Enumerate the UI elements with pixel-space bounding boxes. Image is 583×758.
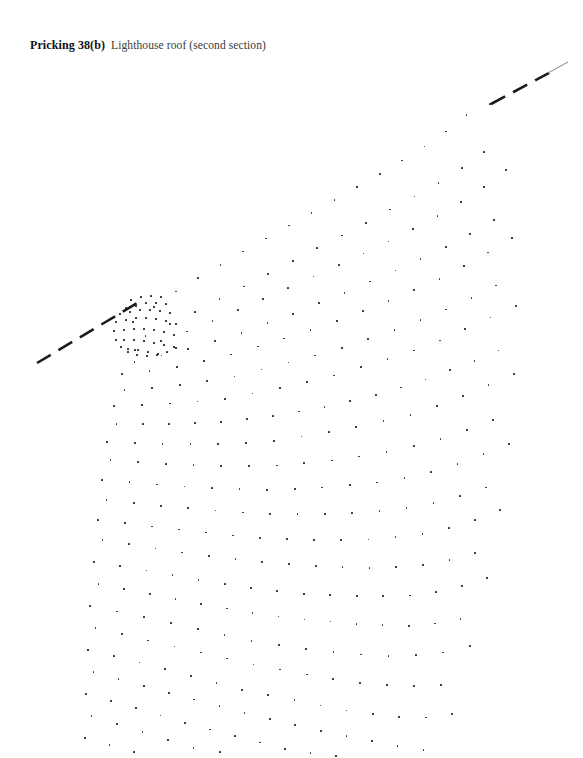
- pin-hole: [123, 588, 125, 590]
- pin-hole: [197, 277, 199, 279]
- pin-hole: [87, 649, 89, 651]
- pin-hole: [404, 477, 406, 479]
- pin-hole: [93, 561, 95, 563]
- pin-hole: [499, 509, 501, 511]
- pin-hole-pivot: [173, 334, 175, 336]
- pin-hole: [160, 505, 162, 507]
- lower-left-join-line: [37, 302, 139, 363]
- pin-hole: [128, 543, 130, 545]
- pin-hole-pivot: [163, 331, 165, 333]
- pin-hole: [246, 418, 248, 420]
- pin-hole-pivot: [146, 355, 148, 357]
- pin-hole: [167, 739, 169, 741]
- pin-hole: [461, 167, 463, 169]
- pin-hole: [165, 463, 167, 465]
- pin-hole: [489, 103, 491, 105]
- pin-hole-pivot: [165, 320, 167, 322]
- pin-hole: [335, 755, 337, 757]
- pin-hole: [203, 360, 205, 362]
- pin-hole: [276, 590, 278, 592]
- pin-hole: [328, 431, 330, 433]
- pin-hole: [121, 373, 123, 375]
- pin-hole: [133, 751, 135, 753]
- pin-hole: [474, 519, 476, 521]
- pin-hole: [474, 552, 476, 554]
- pin-hole: [85, 693, 87, 695]
- pin-hole: [351, 512, 353, 514]
- pin-hole: [224, 583, 226, 585]
- pin-hole: [168, 423, 170, 425]
- pin-hole: [372, 713, 374, 715]
- pin-hole: [379, 173, 381, 175]
- pin-hole: [362, 310, 364, 312]
- pin-hole: [356, 595, 358, 597]
- pin-hole: [318, 302, 320, 304]
- pin-hole: [382, 595, 384, 597]
- pin-hole: [459, 495, 461, 497]
- pin-hole: [469, 645, 471, 647]
- pin-hole: [313, 539, 315, 541]
- pin-hole-pivot: [113, 330, 115, 332]
- pin-hole: [134, 349, 136, 351]
- pin-hole: [261, 561, 263, 563]
- pin-hole-pivot: [135, 317, 137, 319]
- pin-hole: [176, 366, 178, 368]
- pin-hole: [369, 567, 371, 569]
- pin-hole-pivot: [123, 329, 125, 331]
- pin-hole: [137, 461, 139, 463]
- pin-hole: [297, 513, 299, 515]
- pin-hole: [486, 577, 488, 579]
- pin-hole: [469, 233, 471, 235]
- pin-hole: [97, 519, 99, 521]
- pin-hole: [422, 533, 424, 535]
- pin-hole: [190, 675, 192, 677]
- pin-hole: [409, 595, 411, 597]
- pin-hole: [349, 484, 351, 486]
- pin-hole: [89, 605, 91, 607]
- pin-hole: [360, 366, 362, 368]
- pin-hole: [168, 692, 170, 694]
- upper-right-join-line-tail: [548, 62, 568, 73]
- pin-hole: [386, 684, 388, 686]
- pricking-page: Pricking 38(b)Lighthouse roof (second se…: [0, 0, 583, 758]
- pin-hole: [413, 445, 415, 447]
- pin-hole: [461, 585, 463, 587]
- pin-hole: [272, 415, 274, 417]
- pin-hole: [200, 603, 202, 605]
- pin-hole: [492, 419, 494, 421]
- pin-hole: [250, 587, 252, 589]
- pin-hole: [375, 394, 377, 396]
- pin-hole-pivot: [169, 312, 171, 314]
- pin-hole: [135, 707, 137, 709]
- pin-hole: [433, 502, 435, 504]
- pin-hole: [224, 398, 226, 400]
- pin-hole-pivot: [115, 321, 117, 323]
- pin-hole-pivot: [125, 307, 127, 309]
- pin-hole-pivot: [147, 351, 149, 353]
- pin-hole: [142, 423, 144, 425]
- pin-hole-pivot: [135, 305, 137, 307]
- pin-hole: [338, 264, 340, 266]
- pin-hole: [292, 260, 294, 262]
- pin-hole: [101, 479, 103, 481]
- pin-hole: [179, 384, 181, 386]
- pin-hole-pivot: [139, 309, 141, 311]
- pin-hole: [359, 682, 361, 684]
- pin-hole: [310, 752, 312, 754]
- pin-hole: [267, 694, 269, 696]
- pin-hole: [84, 737, 86, 739]
- pin-hole: [110, 700, 112, 702]
- pin-hole-pivot: [175, 323, 177, 325]
- join-guide-lines: [37, 62, 568, 363]
- pin-hole: [320, 730, 322, 732]
- pin-hole: [156, 484, 158, 486]
- pin-hole: [423, 749, 425, 751]
- pin-hole: [513, 373, 515, 375]
- pin-hole: [448, 527, 450, 529]
- pin-hole: [340, 539, 342, 541]
- pin-hole: [269, 718, 271, 720]
- pin-hole: [306, 381, 308, 383]
- pin-hole: [273, 440, 275, 442]
- pin-hole: [259, 537, 261, 539]
- pin-hole: [243, 286, 245, 288]
